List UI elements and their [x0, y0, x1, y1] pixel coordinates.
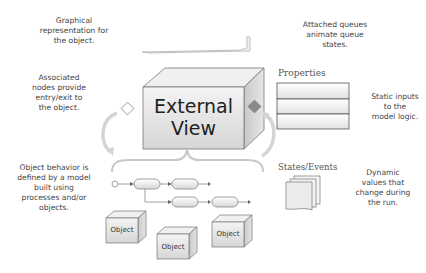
brace-icon [112, 150, 263, 172]
object-behavior-note: Object behavior is defined by a model bu… [16, 163, 92, 213]
process-flow [112, 179, 251, 207]
external-view-label: External View [143, 95, 244, 139]
external-view-line1: External [143, 95, 244, 117]
object-label-2: Object [157, 243, 189, 251]
dynamic-values-note: Dynamic values that change during the ru… [353, 168, 413, 208]
states-events-title: States/Events [278, 162, 337, 172]
properties-title: Properties [278, 68, 326, 78]
properties-table [277, 83, 349, 129]
queue-line [142, 37, 250, 53]
curved-arrow-right-icon [262, 111, 274, 156]
states-events-icon [286, 176, 320, 210]
curved-arrow-left-icon [103, 113, 117, 156]
object-label-3: Object [212, 230, 244, 238]
input-node-icon [121, 102, 134, 115]
object-label-1: Object [106, 226, 138, 234]
graphical-representation-note: Graphical representation for the object. [34, 16, 114, 46]
associated-nodes-note: Associated nodes provide entry/exit to t… [30, 73, 88, 113]
static-inputs-note: Static inputs to the model logic. [371, 92, 419, 122]
attached-queues-note: Attached queues animate queue states. [301, 20, 369, 50]
external-view-line2: View [143, 117, 244, 139]
